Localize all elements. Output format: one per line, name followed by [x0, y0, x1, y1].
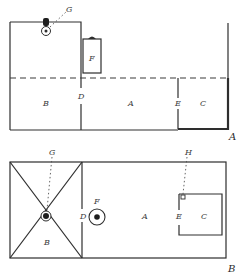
label-b: B [42, 99, 49, 108]
figure-top: G F B D A E C A [10, 5, 236, 142]
lamp-g-plan-icon [41, 211, 51, 221]
figure-caption-a: A [228, 131, 236, 142]
label-c-plan: C [201, 212, 207, 221]
heater-f-cap-icon [88, 37, 96, 40]
label-a-plan: A [141, 212, 148, 221]
label-d: D [77, 92, 85, 101]
label-g-plan: G [49, 148, 56, 157]
heater-f-plan-icon [89, 209, 105, 225]
label-g: G [66, 5, 73, 14]
outer-plan-outline [10, 162, 226, 258]
label-e-plan: E [175, 212, 182, 221]
figure-bottom: G H F D A E C B B [10, 148, 235, 274]
label-e: E [174, 99, 181, 108]
lamp-g-icon [42, 18, 51, 36]
figure-caption-b: B [227, 263, 235, 274]
label-c: C [200, 99, 206, 108]
label-a: A [127, 99, 134, 108]
label-b-plan: B [43, 238, 50, 247]
diagram-canvas: G F B D A E C A [0, 0, 241, 280]
label-h-plan: H [184, 148, 193, 157]
label-f-plan: F [93, 197, 100, 206]
label-f: F [88, 54, 95, 63]
lamp-g-leader [50, 12, 66, 27]
vent-h-icon [181, 195, 185, 199]
label-d-plan: D [79, 212, 87, 221]
